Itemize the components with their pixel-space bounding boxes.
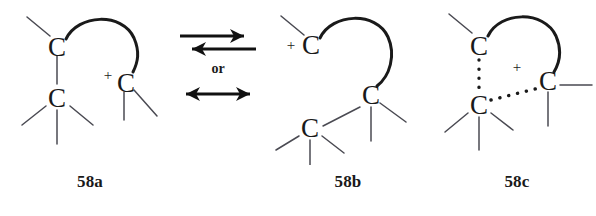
substituent-bond [276, 136, 299, 150]
atom-carbon: C [362, 80, 380, 110]
structure-58c: C C C + [438, 0, 596, 165]
structure-label-58b: 58b [258, 172, 438, 192]
bridge-arc-58b [320, 18, 392, 86]
atom-carbon: C [117, 68, 135, 98]
structure-58b: C + C C [258, 0, 438, 165]
atom-carbon: C [48, 32, 66, 62]
structure-label-58a: 58a [0, 172, 180, 192]
atom-carbon: C [539, 66, 557, 96]
bridge-arc-58c [488, 17, 560, 72]
structure-58a-drawing: C C C + [0, 0, 180, 165]
dotted-bond-horizontal-58c [491, 88, 539, 100]
or-label: or [178, 61, 258, 77]
substituent-bond [281, 16, 304, 35]
positive-charge: + [513, 59, 521, 75]
atom-carbon: C [470, 90, 488, 120]
substituent-bond [380, 103, 406, 122]
figure-canvas: C C C + 58a or [0, 0, 596, 216]
atom-carbon: C [470, 31, 488, 61]
atom-carbon: C [301, 113, 319, 143]
substituent-bond [449, 14, 472, 33]
substituent-bond [27, 17, 50, 36]
structure-58c-drawing: C C C + [438, 0, 596, 165]
positive-charge: + [287, 37, 295, 53]
atom-carbon: C [48, 83, 66, 113]
substituent-bond [70, 106, 93, 125]
substituent-bond [322, 136, 344, 153]
bond-c2-c3-58b [323, 107, 360, 126]
positive-charge: + [104, 67, 112, 83]
atom-carbon: C [302, 30, 320, 60]
structure-58b-drawing: C + C C [258, 0, 438, 165]
bridge-arc-58a [66, 19, 138, 72]
substituent-bond [491, 113, 513, 130]
operator-group: or [178, 22, 258, 112]
substituent-bond [22, 106, 46, 125]
substituent-bond [134, 90, 157, 116]
structure-58a: C C C + [0, 0, 180, 165]
structure-label-58c: 58c [438, 172, 596, 192]
substituent-bond [445, 113, 468, 132]
